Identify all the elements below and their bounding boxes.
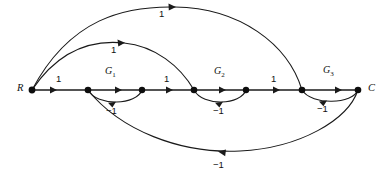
- node-dot-R[interactable]: [29, 87, 36, 94]
- signal-flow-graph-figure: R C 1 G1 1 G2 1 G3 1 1 −1 −1 −1 −1: [0, 0, 389, 176]
- edge-feedback-3-path: [302, 90, 358, 101]
- branch-gain-n2-n3: 1: [164, 74, 169, 84]
- arrowhead-n1-n2: [115, 87, 122, 94]
- node-dot-n4[interactable]: [243, 87, 249, 93]
- arrowhead-input-inner: [118, 40, 126, 47]
- arrowhead-n5-c: [335, 87, 342, 94]
- arrowhead-n4-n5: [273, 87, 280, 94]
- branch-gain-outer-arc: 1: [159, 9, 164, 19]
- branch-gain-feedback-3: −1: [317, 104, 328, 114]
- arrowhead-n2-n3: [166, 87, 173, 94]
- branch-gain-feedback-2: −1: [213, 106, 224, 116]
- node-label-C: C: [368, 83, 375, 94]
- graph-canvas: [0, 0, 389, 176]
- node-dot-n1[interactable]: [85, 87, 92, 94]
- branch-gain-g2-sub: 2: [221, 71, 225, 79]
- node-dot-C[interactable]: [355, 87, 362, 94]
- branch-gain-feedback-1: −1: [106, 106, 117, 116]
- branch-gain-n4-n5: 1: [271, 74, 276, 84]
- arrowhead-n3-n4: [219, 87, 226, 94]
- arrowhead-r-n1: [50, 87, 57, 94]
- branch-gain-g1-sub: 1: [112, 71, 116, 79]
- node-label-R: R: [17, 83, 23, 94]
- node-dot-n2[interactable]: [139, 87, 145, 93]
- arrowhead-input-outer: [169, 4, 177, 11]
- branch-gain-g3-sub: 3: [330, 70, 334, 78]
- node-dot-n3[interactable]: [191, 87, 198, 94]
- node-dot-n5[interactable]: [299, 87, 306, 94]
- arrowhead-output-fb: [218, 149, 226, 156]
- branch-gain-g3: G3: [323, 65, 334, 78]
- branch-gain-outer-feedback: −1: [213, 160, 224, 170]
- branch-gain-g2: G2: [214, 66, 225, 79]
- branch-gain-inner-arc: 1: [111, 45, 116, 55]
- branch-gain-r-n1: 1: [56, 74, 61, 84]
- branch-gain-g1: G1: [105, 66, 116, 79]
